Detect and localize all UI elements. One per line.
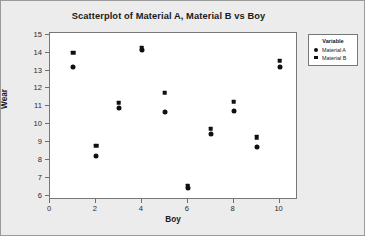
y-axis-tick bbox=[45, 177, 49, 178]
data-point bbox=[208, 131, 213, 136]
y-axis-tick-label: 7 bbox=[22, 172, 42, 181]
data-point bbox=[162, 109, 167, 114]
data-point bbox=[71, 50, 76, 55]
x-axis-tick bbox=[233, 199, 234, 203]
chart-title: Scatterplot of Material A, Material B vs… bbox=[41, 11, 296, 21]
legend-item-label: Material B bbox=[322, 55, 346, 61]
data-point bbox=[208, 126, 213, 131]
data-point bbox=[70, 64, 75, 69]
data-point bbox=[231, 99, 236, 104]
data-point bbox=[140, 46, 145, 51]
y-axis-tick bbox=[45, 70, 49, 71]
x-axis-tick-label: 8 bbox=[231, 204, 235, 213]
data-point bbox=[163, 91, 168, 96]
y-axis-tick-label: 8 bbox=[22, 154, 42, 163]
data-point bbox=[231, 108, 236, 113]
x-axis-tick-label: 6 bbox=[185, 204, 189, 213]
y-axis-tick-label: 11 bbox=[22, 101, 42, 110]
legend-item-label: Material A bbox=[322, 47, 346, 53]
data-point bbox=[254, 145, 259, 150]
x-axis-tick-label: 0 bbox=[47, 204, 51, 213]
y-axis-tick-label: 10 bbox=[22, 119, 42, 128]
legend: Variable Material A Material B bbox=[308, 34, 358, 66]
x-axis-tick bbox=[187, 199, 188, 203]
y-axis-tick-label: 13 bbox=[22, 65, 42, 74]
x-axis-tick bbox=[49, 199, 50, 203]
x-axis-tick bbox=[95, 199, 96, 203]
y-axis-tick bbox=[45, 105, 49, 106]
y-axis-tick-label: 6 bbox=[22, 190, 42, 199]
y-axis-tick-label: 12 bbox=[22, 83, 42, 92]
y-axis-tick bbox=[45, 141, 49, 142]
data-point bbox=[185, 183, 190, 188]
legend-item-material-b[interactable]: Material B bbox=[312, 55, 354, 61]
legend-item-material-a[interactable]: Material A bbox=[312, 47, 354, 53]
y-axis-title: Wear bbox=[0, 79, 9, 119]
data-point bbox=[94, 143, 99, 148]
data-point bbox=[277, 64, 282, 69]
y-axis-tick bbox=[45, 34, 49, 35]
legend-title: Variable bbox=[312, 38, 354, 44]
y-axis-tick-label: 9 bbox=[22, 136, 42, 145]
data-point bbox=[93, 154, 98, 159]
data-point bbox=[277, 58, 282, 63]
y-axis-tick bbox=[45, 87, 49, 88]
data-point-layer bbox=[50, 33, 296, 198]
y-axis-tick bbox=[45, 52, 49, 53]
y-axis-tick bbox=[45, 159, 49, 160]
x-axis-tick-label: 2 bbox=[93, 204, 97, 213]
square-marker-icon bbox=[313, 55, 319, 61]
circle-marker-icon bbox=[313, 47, 319, 53]
x-axis-tick-label: 4 bbox=[139, 204, 143, 213]
x-axis-tick bbox=[279, 199, 280, 203]
y-axis-tick bbox=[45, 123, 49, 124]
y-axis-tick-label: 14 bbox=[22, 47, 42, 56]
y-axis-tick bbox=[45, 195, 49, 196]
x-axis-tick-label: 10 bbox=[274, 204, 282, 213]
chart-figure: Scatterplot of Material A, Material B vs… bbox=[0, 0, 365, 236]
y-axis-tick-label: 15 bbox=[22, 29, 42, 38]
data-point bbox=[116, 106, 121, 111]
data-point bbox=[254, 135, 259, 140]
x-axis-tick bbox=[141, 199, 142, 203]
plot-area bbox=[49, 32, 297, 199]
x-axis-title: Boy bbox=[49, 215, 297, 224]
data-point bbox=[117, 100, 122, 105]
